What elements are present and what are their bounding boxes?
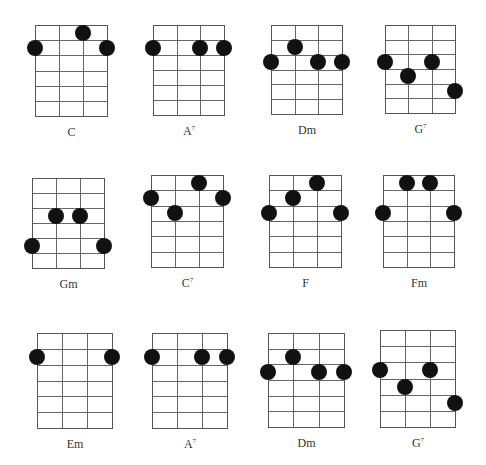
chord-diagram: Dm [268,333,345,458]
finger-dot [333,205,349,221]
finger-dot [377,54,393,70]
fret-line [386,69,455,70]
finger-dot [143,190,159,206]
fret-line [152,252,223,253]
chord-name: C [67,125,75,139]
fret-line [270,252,341,253]
fret-line [384,236,454,237]
chord-name: G [414,122,423,136]
fret-line [38,349,112,350]
chord-name: C [182,276,190,290]
chord-diagram: C [35,25,108,147]
chord-label: A7 [153,124,225,139]
finger-dot [99,40,115,56]
chord-diagram: F [269,175,342,298]
fret-line [154,55,224,56]
chord-superscript: 7 [421,436,425,444]
fret-line [272,99,342,100]
finger-dot [285,190,301,206]
fret-line [33,223,104,224]
fret-line [386,40,455,41]
chord-diagram: A7 [152,333,228,459]
fret-line [384,252,454,253]
fret-line [38,381,112,382]
fret-line [269,364,344,365]
chord-name: A [184,437,193,451]
finger-dot [96,238,112,254]
finger-dot [263,54,279,70]
chord-name: Dm [298,123,316,137]
fret-line [152,190,223,191]
chord-diagram: G7 [380,330,456,458]
fret-line [33,193,104,194]
fret-line [270,236,341,237]
fret-line [381,362,455,363]
fret-line [152,206,223,207]
fret-line [270,221,341,222]
fret-line [36,71,107,72]
finger-dot [192,40,208,56]
fretboard-grid [151,175,224,268]
fretboard-grid [271,25,343,115]
fretboard-grid [268,333,345,428]
finger-dot [29,349,45,365]
finger-dot [104,349,120,365]
fret-line [386,98,455,99]
chord-label: Fm [383,276,455,291]
finger-dot [422,175,438,191]
finger-dot [285,349,301,365]
chord-label: G7 [385,122,456,137]
fret-line [154,40,224,41]
finger-dot [399,175,415,191]
chord-diagram: Fm [383,175,455,298]
fret-line [381,346,455,347]
fret-line [153,381,227,382]
fretboard-grid [35,25,108,117]
fret-line [33,208,104,209]
fretboard-grid [37,333,113,429]
finger-dot [311,364,327,380]
chord-name: F [302,276,309,290]
finger-dot [447,83,463,99]
fret-line [154,85,224,86]
finger-dot [424,54,440,70]
chord-label: Em [37,437,113,452]
chord-diagram: C7 [151,175,224,298]
fret-line [386,54,455,55]
fret-line [272,70,342,71]
fret-line [153,396,227,397]
fret-line [152,221,223,222]
fretboard-grid [385,25,456,114]
chord-name: A [183,124,192,138]
finger-dot [334,54,350,70]
fret-line [269,380,344,381]
fret-line [270,190,341,191]
finger-dot [144,349,160,365]
finger-dot [27,40,43,56]
chord-name: Fm [411,276,427,290]
fret-line [153,412,227,413]
finger-dot [309,175,325,191]
fret-line [272,40,342,41]
chord-superscript: 7 [423,122,427,130]
chord-label: Dm [268,436,345,451]
finger-dot [72,208,88,224]
fret-line [152,236,223,237]
chord-label: C [35,125,108,140]
fret-line [269,411,344,412]
chord-name: G [412,436,421,450]
fret-line [270,206,341,207]
chord-label: F [269,276,342,291]
fret-line [272,55,342,56]
chord-diagram: Gm [32,178,105,299]
chord-label: C7 [151,276,224,291]
chord-superscript: 7 [192,124,196,132]
finger-dot [216,40,232,56]
fret-line [269,349,344,350]
chord-label: A7 [152,437,228,452]
fret-line [38,365,112,366]
finger-dot [287,39,303,55]
finger-dot [191,175,207,191]
fret-line [36,40,107,41]
chord-label: G7 [380,436,456,451]
